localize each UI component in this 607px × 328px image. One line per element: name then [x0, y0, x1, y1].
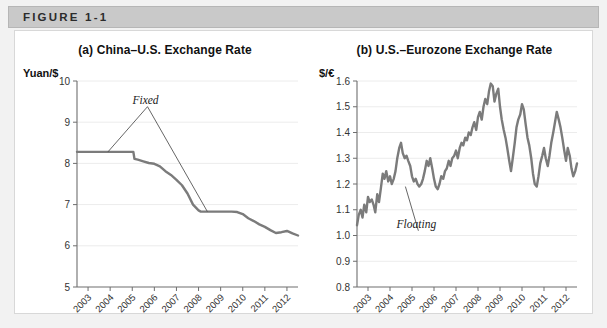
- x-tick-label: 2004: [93, 292, 116, 315]
- figure-frame: FIGURE 1-1 (a) China–U.S. Exchange Rate …: [0, 0, 607, 328]
- y-tick-label: 7: [64, 199, 70, 210]
- x-tick-label: 2004: [373, 292, 396, 315]
- y-tick-label: 9: [64, 117, 70, 128]
- y-tick-label: 0.8: [336, 282, 350, 293]
- x-tick-label: 2011: [248, 292, 270, 314]
- y-tick-label: 1.0: [336, 230, 350, 241]
- x-tick-label: 2007: [439, 292, 462, 315]
- x-tick-label: 2011: [527, 292, 549, 314]
- x-tick-label: 2008: [181, 292, 204, 315]
- panel-b-plot: 0.80.91.01.11.21.31.41.51.62003200420052…: [315, 31, 594, 315]
- y-tick-label: 1.5: [336, 101, 350, 112]
- x-tick-label: 2012: [270, 292, 293, 315]
- y-tick-label: 6: [64, 240, 70, 251]
- annotation-leader-line: [108, 107, 148, 152]
- x-tick-label: 2003: [351, 292, 374, 315]
- annotation-label: Floating: [396, 218, 437, 231]
- x-tick-label: 2006: [417, 292, 440, 315]
- x-tick-label: 2009: [203, 292, 226, 315]
- y-tick-label: 1.4: [336, 127, 350, 138]
- figure-body: (a) China–U.S. Exchange Rate Yuan/$ 5678…: [14, 30, 593, 314]
- figure-number-label: FIGURE 1-1: [23, 11, 108, 23]
- panel-a-plot: 5678910200320042005200620072008200920102…: [15, 31, 315, 315]
- y-tick-label: 0.9: [336, 256, 350, 267]
- chart-panel-us-eurozone: (b) U.S.–Eurozone Exchange Rate $/€ 0.80…: [315, 31, 594, 315]
- annotation-label: Fixed: [131, 94, 158, 106]
- x-tick-label: 2003: [71, 292, 94, 315]
- x-tick-label: 2012: [549, 292, 572, 315]
- data-series-line: [77, 152, 298, 236]
- y-tick-label: 1.6: [336, 76, 350, 87]
- y-tick-label: 1.1: [336, 204, 350, 215]
- x-tick-label: 2006: [137, 292, 160, 315]
- y-tick-label: 1.2: [336, 179, 350, 190]
- x-tick-label: 2010: [225, 292, 248, 315]
- x-tick-label: 2010: [505, 292, 528, 315]
- chart-panel-china-us: (a) China–U.S. Exchange Rate Yuan/$ 5678…: [15, 31, 315, 315]
- data-series-line: [357, 84, 577, 226]
- x-tick-label: 2008: [461, 292, 484, 315]
- figure-header-band: FIGURE 1-1: [8, 6, 599, 28]
- x-tick-label: 2005: [115, 292, 138, 315]
- y-tick-label: 1.3: [336, 153, 350, 164]
- y-tick-label: 8: [64, 158, 70, 169]
- x-tick-label: 2009: [483, 292, 506, 315]
- y-tick-label: 10: [59, 76, 71, 87]
- x-tick-label: 2005: [395, 292, 418, 315]
- y-tick-label: 5: [64, 282, 70, 293]
- x-tick-label: 2007: [159, 292, 182, 315]
